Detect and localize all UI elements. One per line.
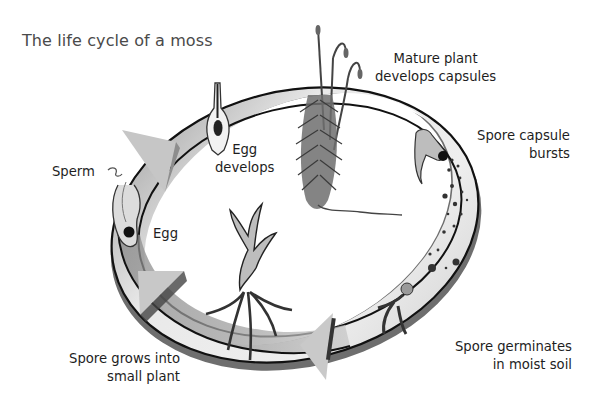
label-sperm: Sperm <box>52 163 95 181</box>
label-egg: Egg <box>153 225 178 243</box>
label-spore-capsule-bursts: Spore capsule bursts <box>468 127 570 163</box>
moss-life-cycle-diagram: The life cycle of a moss Mature plant de… <box>0 0 600 414</box>
diagram-title: The life cycle of a moss <box>22 31 213 50</box>
label-mature-plant: Mature plant develops capsules <box>375 50 496 86</box>
label-spore-grows: Spore grows into small plant <box>48 350 180 386</box>
label-spore-germinates: Spore germinates in moist soil <box>434 338 572 374</box>
label-egg-develops: Egg develops <box>215 141 274 177</box>
